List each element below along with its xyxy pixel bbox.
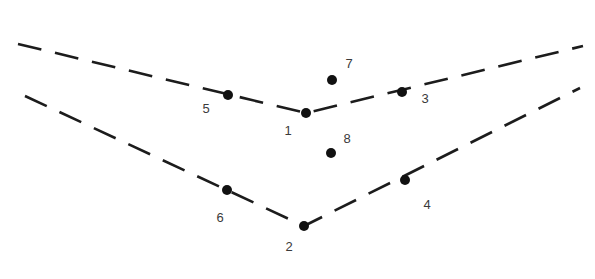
diagram-canvas: 12345678	[0, 0, 595, 279]
polyline-layer	[18, 44, 583, 226]
figure-svg: 12345678	[0, 0, 595, 279]
point-marker-4[interactable]	[400, 175, 410, 185]
point-label-2: 2	[285, 239, 292, 254]
point-marker-7[interactable]	[327, 75, 337, 85]
point-marker-5[interactable]	[223, 90, 233, 100]
point-label-7: 7	[345, 56, 352, 71]
point-marker-6[interactable]	[222, 185, 232, 195]
dashed-polyline-upper-chevron	[18, 44, 583, 113]
point-label-4: 4	[423, 197, 430, 212]
dashed-polyline-lower-chevron	[25, 88, 580, 226]
point-marker-2[interactable]	[299, 221, 309, 231]
point-marker-8[interactable]	[326, 148, 336, 158]
point-label-1: 1	[284, 123, 291, 138]
point-label-5: 5	[202, 101, 209, 116]
point-marker-3[interactable]	[397, 87, 407, 97]
point-marker-1[interactable]	[301, 108, 311, 118]
point-label-6: 6	[216, 210, 223, 225]
point-label-8: 8	[343, 131, 350, 146]
point-label-3: 3	[421, 91, 428, 106]
label-layer: 12345678	[202, 56, 430, 254]
